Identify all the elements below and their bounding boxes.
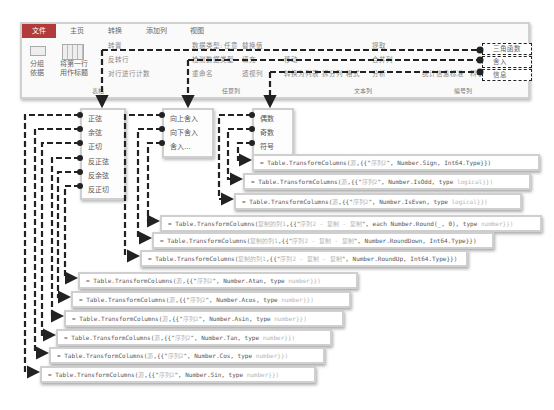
connector-round: [188, 60, 480, 106]
connector-dot: [159, 140, 165, 146]
connector-dot: [249, 126, 255, 132]
connector-dot: [249, 140, 255, 146]
connector-dot: [159, 126, 165, 132]
connector-is-even: [219, 115, 252, 199]
connector-trig: [102, 50, 480, 106]
connector-lines: [0, 0, 554, 410]
connector-sign: [238, 143, 252, 160]
connector-dot: [77, 126, 83, 132]
connector-dot: [77, 183, 83, 189]
connector-dot: [477, 57, 484, 64]
connector-info: [270, 72, 480, 106]
connector-round-x: [148, 143, 162, 221]
connector-is-odd: [228, 129, 252, 179]
connector-dot: [77, 140, 83, 146]
connector-dot: [77, 112, 83, 118]
connector-dot: [477, 69, 484, 76]
connector-round-up: [125, 115, 162, 256]
connector-dot: [77, 155, 83, 161]
connector-arctangent: [65, 186, 80, 278]
connector-dot: [249, 112, 255, 118]
connector-dot: [77, 169, 83, 175]
connector-dot: [159, 112, 165, 118]
connector-dot: [477, 47, 484, 54]
